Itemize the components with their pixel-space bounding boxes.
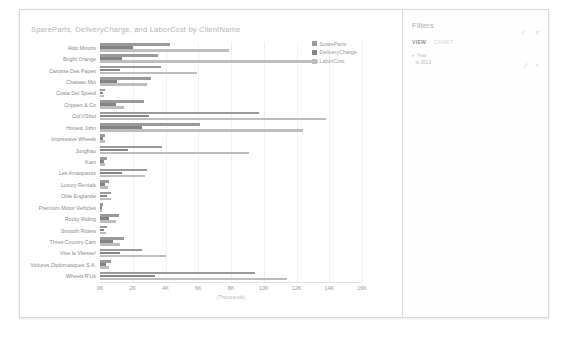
- bar-group[interactable]: [100, 225, 362, 236]
- bar[interactable]: [100, 198, 111, 201]
- category-label: Rocky Riding: [65, 214, 96, 224]
- chart-plot: Aldo MotorsBright OrangeCarosse Des Pape…: [20, 42, 402, 304]
- bar-group[interactable]: [100, 248, 362, 259]
- chevron-left-icon[interactable]: [520, 22, 527, 29]
- bar[interactable]: [100, 49, 229, 52]
- category-label: Impressive Wheels: [51, 134, 96, 144]
- category-label: Honest John: [66, 123, 96, 133]
- bar-group[interactable]: [100, 157, 362, 168]
- filter-tab-view[interactable]: VIEW: [412, 39, 426, 45]
- bar-group[interactable]: [100, 271, 362, 282]
- plot-area: [100, 42, 362, 282]
- category-label: Vive la Vitesse!: [60, 248, 96, 258]
- filter-field-name: Year: [417, 53, 427, 58]
- bar-group[interactable]: [100, 260, 362, 271]
- bar[interactable]: [100, 72, 197, 75]
- category-label: Les Arnaqueurs: [59, 168, 96, 178]
- bar[interactable]: [100, 278, 287, 281]
- x-tick-label: 10K: [259, 285, 269, 291]
- x-tick-label: 4K: [162, 285, 169, 291]
- bar-group[interactable]: [100, 122, 362, 133]
- legend-label: DeliveryCharge: [320, 49, 357, 55]
- legend-swatch-icon: [312, 59, 317, 64]
- bar[interactable]: [100, 255, 166, 258]
- filter-card-header[interactable]: ▸ Year: [412, 53, 541, 58]
- category-label: Carosse Des Papes: [49, 66, 96, 76]
- category-label: Jungfrau: [75, 146, 96, 156]
- legend-item-1[interactable]: DeliveryCharge: [312, 49, 357, 56]
- x-tick-label: 16K: [357, 285, 367, 291]
- category-label: Luxury Rentals: [61, 180, 96, 190]
- filter-card[interactable]: ▸ Year is 2013: [412, 53, 541, 65]
- bar[interactable]: [100, 266, 109, 269]
- bar-group[interactable]: [100, 88, 362, 99]
- filters-pane: Filters VIEWCHART ▸ Year is 2013: [402, 10, 548, 317]
- report-page: SpareParts, DeliveryCharge, and LaborCos…: [19, 9, 549, 318]
- bar[interactable]: [100, 220, 116, 223]
- bar[interactable]: [100, 106, 124, 109]
- bar[interactable]: [100, 152, 249, 155]
- category-label: Bright Orange: [63, 54, 96, 64]
- bar[interactable]: [100, 60, 318, 63]
- filters-tab-row: VIEWCHART: [412, 39, 453, 45]
- legend-swatch-icon: [312, 41, 317, 46]
- category-label: Olde Englande: [61, 191, 96, 201]
- x-tick-label: 8K: [228, 285, 235, 291]
- x-tick-label: 14K: [324, 285, 334, 291]
- category-label: Kant: [85, 157, 96, 167]
- category-label: Cut'n'Shut: [72, 111, 96, 121]
- x-tick-label: 12K: [292, 285, 302, 291]
- bar[interactable]: [100, 129, 303, 132]
- bar[interactable]: [100, 163, 105, 166]
- bar[interactable]: [100, 243, 120, 246]
- bar-group[interactable]: [100, 168, 362, 179]
- legend-label: LaborCost: [320, 58, 345, 64]
- bar[interactable]: [100, 232, 106, 235]
- bar[interactable]: [100, 209, 102, 212]
- filters-pane-actions: [520, 22, 541, 29]
- close-icon[interactable]: [534, 22, 541, 29]
- x-tick-label: 6K: [195, 285, 202, 291]
- bar-group[interactable]: [100, 100, 362, 111]
- x-axis-label: (Thousands): [217, 294, 246, 300]
- bar[interactable]: [100, 83, 147, 86]
- legend-label: SpareParts: [320, 41, 347, 47]
- bar[interactable]: [100, 95, 104, 98]
- bar-group[interactable]: [100, 191, 362, 202]
- gridline: [362, 42, 363, 282]
- x-tick-label: 2K: [129, 285, 136, 291]
- x-tick-label: 0K: [97, 285, 104, 291]
- category-axis: Aldo MotorsBright OrangeCarosse Des Pape…: [20, 42, 99, 282]
- bar-group[interactable]: [100, 214, 362, 225]
- pencil-icon[interactable]: [523, 54, 530, 61]
- bar-group[interactable]: [100, 134, 362, 145]
- chart-legend[interactable]: SparePartsDeliveryChargeLaborCost: [312, 40, 357, 66]
- bar-group[interactable]: [100, 65, 362, 76]
- bar-group[interactable]: [100, 77, 362, 88]
- category-label: Costa Del Speed: [56, 88, 96, 98]
- bar-group[interactable]: [100, 145, 362, 156]
- bar-group[interactable]: [100, 202, 362, 213]
- bar[interactable]: [100, 140, 105, 143]
- legend-item-2[interactable]: LaborCost: [312, 58, 357, 65]
- bar[interactable]: [100, 175, 145, 178]
- category-label: Smooth Riders: [61, 226, 96, 236]
- chart-visual[interactable]: SpareParts, DeliveryCharge, and LaborCos…: [20, 10, 402, 317]
- bar-group[interactable]: [100, 237, 362, 248]
- bar[interactable]: [100, 186, 108, 189]
- chevron-right-icon[interactable]: ▸: [412, 53, 414, 58]
- legend-item-0[interactable]: SpareParts: [312, 40, 357, 47]
- filter-tab-chart[interactable]: CHART: [434, 39, 453, 45]
- bar-group[interactable]: [100, 111, 362, 122]
- category-label: Chateau Moi: [66, 77, 96, 87]
- category-label: Three Country Cars: [49, 237, 96, 247]
- bar[interactable]: [100, 118, 326, 121]
- chart-title: SpareParts, DeliveryCharge, and LaborCos…: [31, 25, 240, 34]
- filters-pane-title: Filters: [412, 21, 434, 30]
- category-label: Voitures Diplomatiques S.A.: [30, 260, 96, 270]
- x-axis-line: [100, 282, 362, 283]
- clear-icon[interactable]: [534, 54, 541, 61]
- category-label: Premium Motor Vehicles: [39, 203, 96, 213]
- category-label: Aldo Motors: [68, 43, 96, 53]
- bar-group[interactable]: [100, 180, 362, 191]
